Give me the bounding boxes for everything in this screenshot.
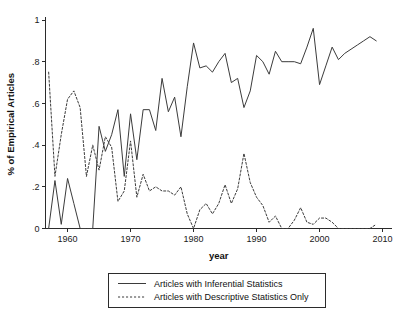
x-tick-label: 1970 xyxy=(121,234,141,244)
x-tick-label: 1960 xyxy=(58,234,78,244)
y-axis-ticks: 0.2.4.6.81 xyxy=(32,15,46,234)
legend-label-1: Articles with Descriptive Statistics Onl… xyxy=(154,292,309,302)
series-group xyxy=(49,28,377,228)
series-line-0 xyxy=(49,28,377,228)
x-tick-label: 2010 xyxy=(373,234,393,244)
y-tick-label: .2 xyxy=(32,182,40,192)
x-tick-label: 1980 xyxy=(184,234,204,244)
chart-figure: 0.2.4.6.81 196019701980199020002010 year… xyxy=(0,0,403,316)
y-tick-label: 0 xyxy=(34,224,39,234)
y-tick-label: .4 xyxy=(32,140,40,150)
y-tick-label: .8 xyxy=(32,57,40,67)
y-tick-label: .6 xyxy=(32,99,40,109)
x-tick-label: 2000 xyxy=(310,234,330,244)
line-chart: 0.2.4.6.81 196019701980199020002010 year… xyxy=(0,0,403,316)
x-axis-title: year xyxy=(209,250,229,261)
chart-legend: Articles with Inferential StatisticsArti… xyxy=(108,273,325,307)
y-axis-title: % of Empirical Articles xyxy=(5,73,16,176)
x-axis-ticks: 196019701980199020002010 xyxy=(58,229,393,245)
x-tick-label: 1990 xyxy=(247,234,267,244)
legend-label-0: Articles with Inferential Statistics xyxy=(154,279,283,289)
y-tick-label: 1 xyxy=(34,15,39,25)
